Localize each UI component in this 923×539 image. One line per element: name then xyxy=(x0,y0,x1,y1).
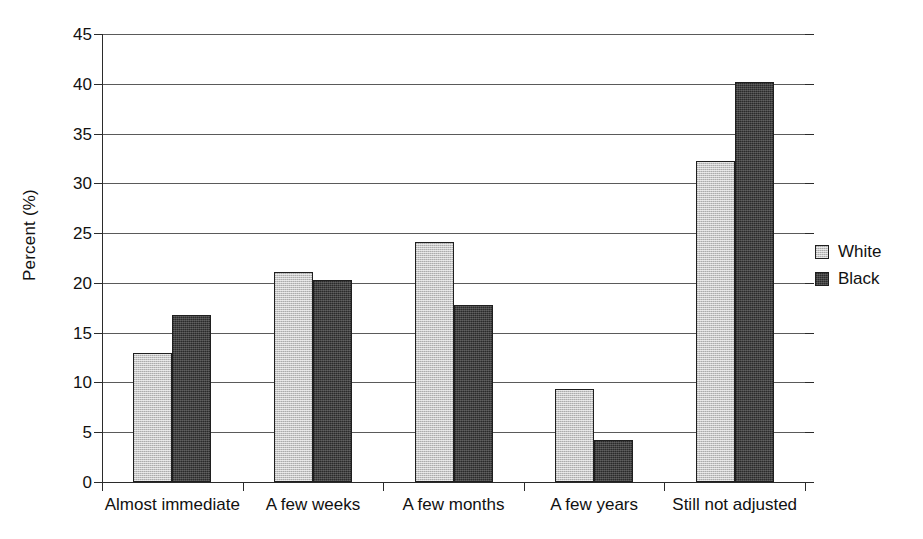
x-axis-tick-label: Almost immediate xyxy=(102,496,243,515)
y-axis-tick-right xyxy=(805,34,814,35)
x-axis-tick xyxy=(805,483,806,491)
y-axis-tick xyxy=(94,432,102,433)
y-axis-tick-label: 40 xyxy=(46,76,92,93)
bar xyxy=(133,353,172,482)
y-axis-tick-right xyxy=(805,84,814,85)
y-axis-tick-label: 20 xyxy=(46,275,92,292)
y-axis-tick xyxy=(94,183,102,184)
y-axis-tick xyxy=(94,233,102,234)
x-axis-tick-label: A few months xyxy=(383,496,524,515)
y-axis-tick xyxy=(94,333,102,334)
x-axis-tick xyxy=(664,483,665,491)
y-axis-tick-labels: 051015202530354045 xyxy=(40,34,92,482)
legend-item: Black xyxy=(815,265,920,292)
x-axis-line xyxy=(102,482,806,483)
bar xyxy=(415,242,454,482)
legend-item: White xyxy=(815,238,920,265)
bars-layer xyxy=(102,34,805,482)
y-axis-tick-right xyxy=(805,432,814,433)
y-axis-tick-right xyxy=(805,183,814,184)
x-axis-tick xyxy=(383,483,384,491)
bar xyxy=(274,272,313,482)
x-axis-tick-label: A few years xyxy=(524,496,665,515)
x-axis-tick xyxy=(243,483,244,491)
y-axis-tick-label: 0 xyxy=(46,474,92,491)
y-axis-tick-right xyxy=(805,134,814,135)
y-axis-tick xyxy=(94,482,102,483)
x-axis-tick-labels: Almost immediateA few weeksA few monthsA… xyxy=(102,496,805,526)
y-axis-tick xyxy=(94,84,102,85)
bar xyxy=(594,440,633,482)
y-axis-tick-right xyxy=(805,482,814,483)
y-axis-tick xyxy=(94,134,102,135)
y-axis-tick-label: 10 xyxy=(46,374,92,391)
y-axis-tick-right xyxy=(805,233,814,234)
y-axis-tick-right xyxy=(805,283,814,284)
bar xyxy=(735,82,774,482)
y-axis-tick xyxy=(94,283,102,284)
x-axis-tick-label: Still not adjusted xyxy=(664,496,805,515)
x-axis-tick-label: A few weeks xyxy=(243,496,384,515)
legend-swatch-icon xyxy=(815,272,829,286)
bar-chart: Percent (%) 051015202530354045 Almost im… xyxy=(0,0,923,539)
legend-label: White xyxy=(838,242,881,262)
y-axis-tick-right xyxy=(805,382,814,383)
y-axis-tick-right xyxy=(805,333,814,334)
x-axis-tick xyxy=(524,483,525,491)
bar xyxy=(696,161,735,482)
bar xyxy=(313,280,352,482)
legend-label: Black xyxy=(838,269,880,289)
y-axis-tick xyxy=(94,34,102,35)
y-axis-title: Percent (%) xyxy=(20,135,40,335)
y-axis-tick-label: 45 xyxy=(46,26,92,43)
y-axis-tick-label: 30 xyxy=(46,175,92,192)
bar xyxy=(454,305,493,482)
y-axis-tick-label: 15 xyxy=(46,325,92,342)
bar xyxy=(555,389,594,482)
y-axis-tick-label: 5 xyxy=(46,424,92,441)
y-axis-tick xyxy=(94,382,102,383)
legend-swatch-icon xyxy=(815,245,829,259)
y-axis-tick-label: 35 xyxy=(46,126,92,143)
x-axis-tick xyxy=(102,483,103,491)
legend: WhiteBlack xyxy=(815,238,920,292)
bar xyxy=(172,315,211,482)
y-axis-tick-label: 25 xyxy=(46,225,92,242)
